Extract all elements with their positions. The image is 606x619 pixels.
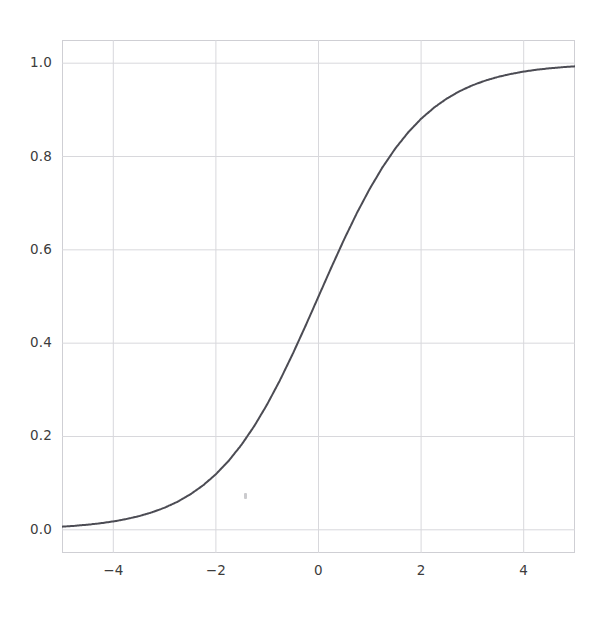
y-tick-label-5: 1.0 [8, 56, 52, 70]
y-tick-label-1: 0.2 [8, 430, 52, 444]
y-tick-label-2: 0.4 [8, 336, 52, 350]
x-tick-label-2: 0 [299, 564, 339, 578]
faint-speck-artifact [244, 493, 247, 499]
x-axis-tick-labels: −4−2024 [62, 564, 575, 588]
sigmoid-plot-svg [62, 40, 575, 553]
x-tick-label-0: −4 [93, 564, 133, 578]
y-axis-tick-labels: 0.00.20.40.60.81.0 [0, 40, 52, 553]
x-tick-label-1: −2 [196, 564, 236, 578]
y-tick-label-0: 0.0 [8, 523, 52, 537]
y-tick-label-3: 0.6 [8, 243, 52, 257]
x-tick-label-3: 2 [401, 564, 441, 578]
y-tick-label-4: 0.8 [8, 150, 52, 164]
x-tick-label-4: 4 [504, 564, 544, 578]
plot-axes-area [62, 40, 575, 553]
figure-canvas: 0.00.20.40.60.81.0 −4−2024 [0, 0, 606, 619]
